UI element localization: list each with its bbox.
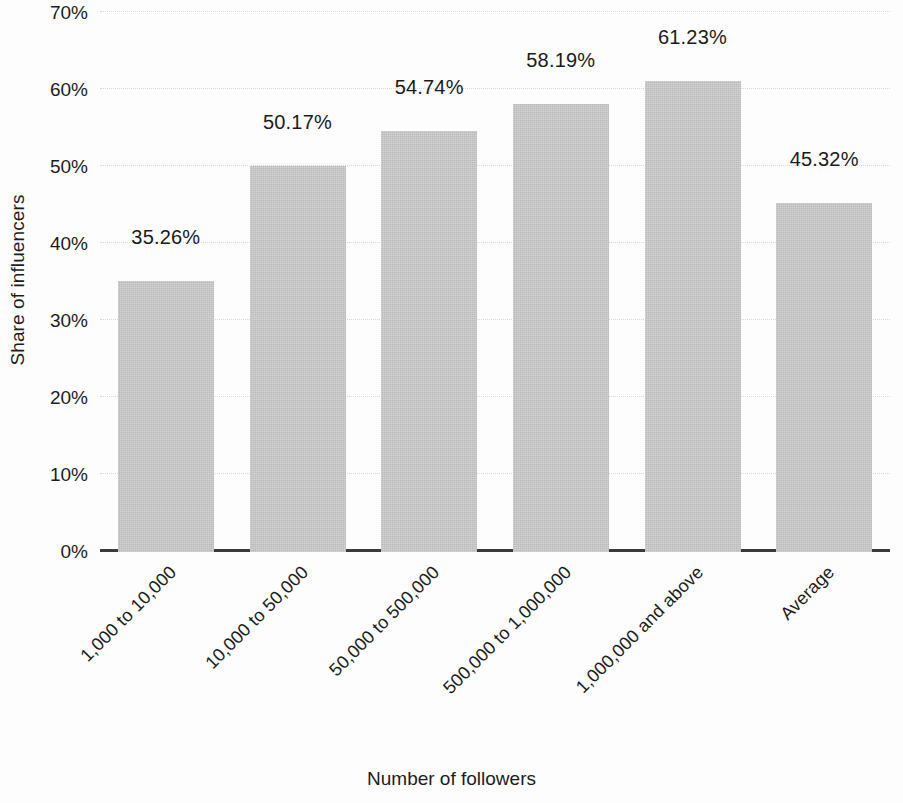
y-axis-tick-label: 30%	[8, 310, 88, 332]
gridline	[100, 396, 890, 398]
y-axis-tick-label: 20%	[8, 387, 88, 409]
bar[interactable]	[776, 203, 872, 552]
bar[interactable]	[513, 104, 609, 552]
bar[interactable]	[118, 281, 214, 553]
y-axis-tick-label: 0%	[8, 541, 88, 563]
x-axis-title: Number of followers	[0, 768, 903, 790]
gridline	[100, 319, 890, 321]
bar-chart: Share of influencers 0%10%20%30%40%50%60…	[0, 0, 903, 803]
plot-area: 35.26%50.17%54.74%58.19%61.23%45.32%	[100, 13, 890, 552]
bar-value-label: 54.74%	[349, 76, 509, 99]
bar-value-label: 61.23%	[613, 26, 773, 49]
bar-value-label: 50.17%	[218, 111, 378, 134]
bar[interactable]	[381, 131, 477, 552]
x-axis-baseline	[100, 549, 890, 552]
gridline	[100, 11, 890, 13]
bar-value-label: 58.19%	[481, 49, 641, 72]
gridline	[100, 473, 890, 475]
bar[interactable]	[645, 81, 741, 552]
bar-value-label: 45.32%	[744, 148, 903, 171]
y-axis-tick-label: 60%	[8, 79, 88, 101]
y-axis-tick-label: 10%	[8, 464, 88, 486]
bar[interactable]	[250, 166, 346, 552]
y-axis-tick-label: 40%	[8, 233, 88, 255]
y-axis-tick-label: 50%	[8, 156, 88, 178]
y-axis-tick-label: 70%	[8, 2, 88, 24]
y-axis-title-text: Share of influencers	[6, 195, 28, 366]
bar-value-label: 35.26%	[86, 226, 246, 249]
